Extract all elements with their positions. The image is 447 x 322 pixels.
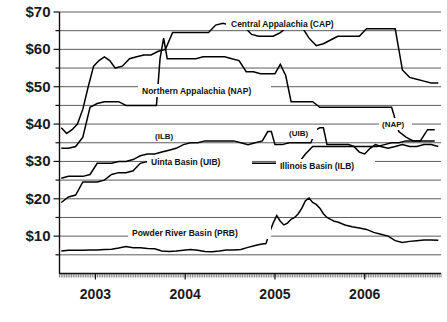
y-axis-label-40: $40 xyxy=(25,115,50,132)
annotation-nap-short-label: (NAP) xyxy=(382,120,405,129)
chart-canvas: $10$20$30$40$50$60$70 2003200420052006 C… xyxy=(0,0,447,322)
annotation-prb-label: Powder River Basin (PRB) xyxy=(132,228,238,238)
x-axis-label-2006: 2006 xyxy=(349,286,380,302)
y-axis-labels: $10$20$30$40$50$60$70 xyxy=(25,3,50,244)
coal-price-chart: $10$20$30$40$50$60$70 2003200420052006 C… xyxy=(0,0,447,322)
gridlines xyxy=(60,12,442,255)
series-line-uib xyxy=(61,141,434,203)
annotation-ilb-short-label: (ILB) xyxy=(155,132,174,141)
annotation-uib-label: Uinta Basin (UIB) xyxy=(151,157,221,167)
annotation-uib-short-label: (UIB) xyxy=(289,129,308,138)
annotation-nap-short: (NAP) xyxy=(379,118,412,130)
y-axis-label-20: $20 xyxy=(25,190,50,207)
annotation-cap-label: Central Appalachia (CAP) xyxy=(231,19,334,29)
annotation-uib-short: (UIB) xyxy=(286,127,317,139)
annotation-ilb-label: Illinois Basin (ILB) xyxy=(280,161,354,171)
annotation-ilb-short: (ILB) xyxy=(152,130,182,142)
y-axis-label-30: $30 xyxy=(25,152,50,169)
y-axis-label-70: $70 xyxy=(25,3,50,20)
y-axis-label-10: $10 xyxy=(25,227,50,244)
x-axis-label-2004: 2004 xyxy=(170,286,201,302)
x-axis-label-2005: 2005 xyxy=(259,286,290,302)
series-line-prb xyxy=(61,198,438,252)
annotation-prb: Powder River Basin (PRB) xyxy=(128,226,271,239)
y-axis-label-50: $50 xyxy=(25,78,50,95)
series-line-cap xyxy=(61,23,438,133)
x-axis-label-2003: 2003 xyxy=(80,286,111,302)
annotation-cap: Central Appalachia (CAP) xyxy=(226,17,350,30)
annotation-ilb: Illinois Basin (ILB) xyxy=(276,159,375,172)
y-axis-label-60: $60 xyxy=(25,40,50,57)
annotation-uib: Uinta Basin (UIB) xyxy=(147,155,252,168)
series-line-ilb xyxy=(61,128,438,178)
x-axis-labels: 2003200420052006 xyxy=(80,286,381,302)
x-axis-minor-ticks xyxy=(60,274,442,280)
annotation-nap-label: Northern Appalachia (NAP) xyxy=(142,86,251,96)
y-axis-ticks xyxy=(54,12,60,255)
annotation-nap: Northern Appalachia (NAP) xyxy=(138,84,271,97)
